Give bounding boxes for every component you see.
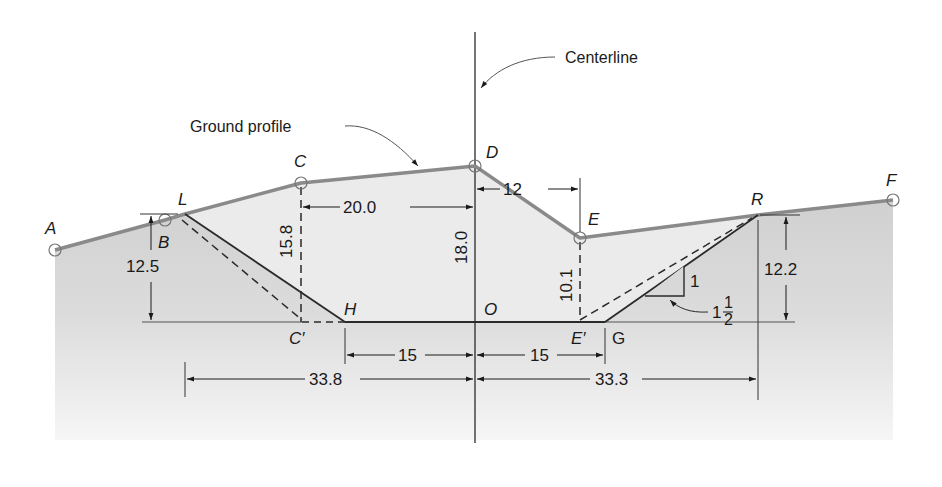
ground-profile-leader [345, 126, 418, 166]
dim-value-33-3: 33.3 [595, 370, 628, 389]
point-label-e: E [588, 210, 600, 229]
centerline-label: Centerline [565, 49, 638, 66]
cross-section-diagram: Centerline Ground profile A B L C D E R … [0, 0, 942, 487]
dim-value-15-left: 15 [398, 346, 417, 365]
dim-value-18-0: 18.0 [452, 231, 471, 264]
point-label-b: B [158, 233, 169, 252]
dim-value-33-8: 33.8 [309, 370, 342, 389]
point-label-c-prime: C′ [289, 329, 305, 348]
point-label-g: G [612, 329, 625, 348]
point-label-r: R [751, 190, 763, 209]
dim-value-10-1: 10.1 [557, 269, 576, 302]
point-label-a: A [44, 219, 56, 238]
dim-value-15-right: 15 [530, 346, 549, 365]
centerline-leader [481, 57, 555, 88]
dim-value-12-5: 12.5 [126, 257, 159, 276]
slope-rise: 1 [690, 272, 699, 291]
point-label-o: O [484, 300, 497, 319]
dim-value-12: 12 [503, 180, 522, 199]
slope-run-num: 1 [724, 294, 733, 311]
dim-value-20-0: 20.0 [343, 198, 376, 217]
point-label-d: D [486, 143, 498, 162]
point-label-e-prime: E′ [571, 329, 586, 348]
point-label-c: C [294, 152, 307, 171]
point-label-f: F [886, 171, 898, 190]
point-label-l: L [178, 190, 187, 209]
slope-run-whole: 1 [712, 303, 721, 322]
point-label-h: H [344, 300, 357, 319]
slope-run-den: 2 [724, 311, 733, 328]
dim-value-15-8: 15.8 [277, 225, 296, 258]
ground-profile-label: Ground profile [190, 118, 291, 135]
dim-value-12-2: 12.2 [764, 260, 797, 279]
